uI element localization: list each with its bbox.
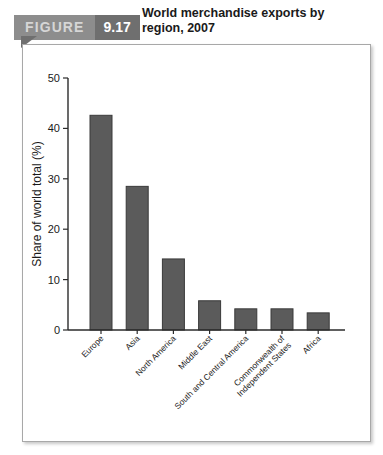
- figure-header: FIGURE 9.17 World merchandise exports by…: [0, 0, 383, 46]
- chart-frame: [22, 44, 371, 442]
- figure-title: World merchandise exports by region, 200…: [142, 6, 367, 36]
- figure-number: 9.17: [95, 15, 140, 40]
